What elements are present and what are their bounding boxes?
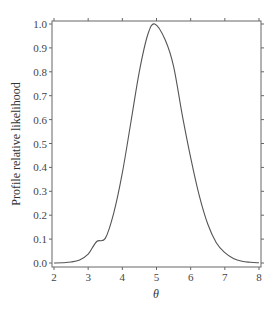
- likelihood-curve: [54, 24, 259, 263]
- y-tick-label: 0.2: [33, 209, 47, 221]
- y-tick-label: 0.7: [33, 90, 47, 102]
- likelihood-chart: 23456780.00.10.20.30.40.50.60.70.80.91.0…: [0, 0, 278, 313]
- axes: [52, 21, 261, 267]
- y-axis-label: Profile relative likelihood: [9, 82, 23, 205]
- x-tick-label: 6: [188, 271, 194, 283]
- y-tick-label: 0.9: [33, 42, 47, 54]
- x-tick-label: 5: [154, 271, 160, 283]
- x-tick-label: 3: [85, 271, 91, 283]
- x-tick-label: 2: [51, 271, 57, 283]
- x-tick-label: 7: [222, 271, 228, 283]
- plot-frame: [52, 21, 261, 267]
- y-tick-label: 0.3: [33, 185, 47, 197]
- y-tick-label: 0.0: [33, 257, 47, 269]
- axis-ticks: 23456780.00.10.20.30.40.50.60.70.80.91.0: [33, 18, 264, 283]
- x-tick-label: 4: [120, 271, 126, 283]
- y-tick-label: 0.5: [33, 138, 47, 150]
- y-tick-label: 1.0: [33, 18, 47, 30]
- x-axis-label: θ: [153, 287, 159, 301]
- y-tick-label: 0.4: [33, 161, 47, 173]
- y-tick-label: 0.1: [33, 233, 47, 245]
- y-tick-label: 0.6: [33, 114, 47, 126]
- y-tick-label: 0.8: [33, 66, 47, 78]
- x-tick-label: 8: [256, 271, 262, 283]
